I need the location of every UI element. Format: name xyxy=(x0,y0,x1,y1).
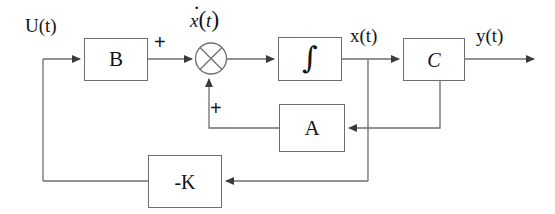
output-matrix-label: C xyxy=(427,50,440,70)
output-signal-label: y(t) xyxy=(476,26,503,45)
summing-junction-glyph xyxy=(196,43,227,74)
integral-icon: ∫ xyxy=(302,43,318,73)
input-matrix-block[interactable]: B xyxy=(84,38,148,81)
feedback-gain-label: -K xyxy=(174,172,195,192)
state-signal-label: x(t) xyxy=(350,26,377,45)
x-dot-symbol: x xyxy=(190,10,198,31)
input-matrix-label: B xyxy=(109,49,123,70)
integrator-block[interactable]: ∫ xyxy=(278,37,342,81)
feedback-gain-block[interactable]: -K xyxy=(148,155,222,208)
block-diagram-canvas: B ∫ C A -K U(t) x(t) x(t) y(t) + + xyxy=(0,0,555,214)
input-signal-label: U(t) xyxy=(25,16,57,35)
output-matrix-block[interactable]: C xyxy=(403,38,465,81)
wiring-layer xyxy=(0,0,555,214)
state-derivative-label: x(t) xyxy=(190,8,219,31)
paren-close: ) xyxy=(211,7,219,32)
state-matrix-label: A xyxy=(304,118,319,139)
state-matrix-block[interactable]: A xyxy=(279,104,345,152)
plus-sign-top: + xyxy=(154,32,166,52)
plus-sign-bottom: + xyxy=(210,98,222,118)
